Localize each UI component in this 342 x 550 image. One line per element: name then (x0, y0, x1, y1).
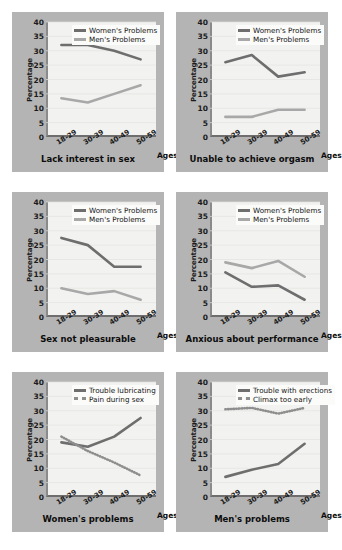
legend-label: Climax too early (253, 395, 312, 404)
legend-label: Women's Problems (253, 206, 321, 215)
y-axis-tick: 5 (39, 478, 44, 487)
y-axis-tick: 10 (198, 284, 208, 293)
chart-legend: Women's ProblemsMen's Problems (236, 205, 324, 225)
y-axis-tick: 20 (34, 75, 44, 84)
y-axis-tick: 5 (39, 118, 44, 127)
legend-swatch-icon (74, 389, 86, 392)
chart-panel: Percentage051015202530354018-2930-3940-4… (12, 192, 164, 352)
legend-item: Pain during sex (74, 395, 156, 404)
y-axis-tick: 30 (198, 226, 208, 235)
chart-legend: Women's ProblemsMen's Problems (236, 25, 324, 45)
legend-swatch-icon (74, 29, 86, 32)
plot-area: Percentage051015202530354018-2930-3940-4… (46, 202, 156, 317)
legend-item: Women's Problems (238, 26, 321, 35)
legend-swatch-icon (74, 38, 86, 41)
y-axis-tick: 40 (34, 198, 44, 207)
series-line (225, 272, 304, 299)
y-axis-tick: 15 (198, 89, 208, 98)
legend-label: Men's Problems (89, 35, 145, 44)
y-axis-tick: 40 (198, 378, 208, 387)
y-axis-tick: 0 (39, 133, 44, 142)
chart-caption: Men's problems (176, 514, 328, 524)
y-axis-tick: 10 (34, 284, 44, 293)
plot-area: Percentage051015202530354018-2930-3940-4… (46, 382, 156, 497)
legend-item: Women's Problems (238, 206, 321, 215)
y-axis-tick: 0 (39, 493, 44, 502)
legend-item: Men's Problems (74, 215, 157, 224)
y-axis-tick: 40 (34, 18, 44, 27)
chart-panel: Percentage051015202530354018-2930-3940-4… (12, 12, 164, 172)
y-axis-tick: 15 (34, 449, 44, 458)
y-axis-tick: 25 (198, 421, 208, 430)
chart-panel: Percentage051015202530354018-2930-3940-4… (176, 12, 328, 172)
legend-swatch-icon (238, 209, 250, 212)
chart-panel: Percentage051015202530354018-2930-3940-4… (12, 372, 164, 532)
legend-item: Trouble with erections (238, 386, 332, 395)
legend-swatch-icon (238, 389, 250, 392)
legend-label: Women's Problems (89, 206, 157, 215)
legend-swatch-icon (238, 397, 250, 403)
series-line (61, 45, 140, 59)
series-line (225, 110, 304, 117)
y-axis-tick: 25 (198, 61, 208, 70)
y-axis-tick: 35 (198, 392, 208, 401)
series-line (61, 288, 140, 300)
y-axis-tick: 25 (198, 241, 208, 250)
y-axis-tick: 5 (203, 118, 208, 127)
chart-legend: Trouble with erectionsClimax too early (236, 385, 335, 405)
chart-caption: Lack interest in sex (12, 154, 164, 164)
y-axis-tick: 30 (198, 46, 208, 55)
y-axis-tick: 15 (34, 269, 44, 278)
legend-label: Women's Problems (89, 26, 157, 35)
y-axis-tick: 30 (198, 406, 208, 415)
y-axis-tick: 20 (34, 255, 44, 264)
legend-swatch-icon (238, 218, 250, 221)
legend-label: Men's Problems (253, 35, 309, 44)
y-axis-tick: 0 (39, 313, 44, 322)
plot-area: Percentage051015202530354018-2930-3940-4… (210, 22, 320, 137)
chart-caption: Anxious about performance (176, 334, 328, 344)
y-axis-tick: 35 (34, 212, 44, 221)
plot-area: Percentage051015202530354018-2930-3940-4… (210, 202, 320, 317)
series-line (225, 444, 304, 477)
y-axis-tick: 5 (39, 298, 44, 307)
series-line (225, 261, 304, 277)
legend-item: Men's Problems (238, 215, 321, 224)
y-axis-tick: 35 (198, 212, 208, 221)
chart-caption: Unable to achieve orgasm (176, 154, 328, 164)
chart-panel: Percentage051015202530354018-2930-3940-4… (176, 192, 328, 352)
y-axis-tick: 10 (34, 104, 44, 113)
y-axis-tick: 20 (198, 75, 208, 84)
chart-caption: Sex not pleasurable (12, 334, 164, 344)
y-axis-tick: 5 (203, 478, 208, 487)
y-axis-tick: 5 (203, 298, 208, 307)
legend-swatch-icon (74, 397, 86, 403)
legend-swatch-icon (238, 29, 250, 32)
series-line (225, 55, 304, 77)
legend-item: Climax too early (238, 395, 332, 404)
legend-item: Men's Problems (74, 35, 157, 44)
legend-label: Women's Problems (253, 26, 321, 35)
y-axis-tick: 30 (34, 406, 44, 415)
y-axis-tick: 0 (203, 313, 208, 322)
y-axis-tick: 35 (198, 32, 208, 41)
chart-legend: Women's ProblemsMen's Problems (72, 205, 160, 225)
y-axis-tick: 0 (203, 493, 208, 502)
y-axis-tick: 25 (34, 61, 44, 70)
legend-label: Men's Problems (89, 215, 145, 224)
y-axis-tick: 20 (34, 435, 44, 444)
y-axis-tick: 25 (34, 241, 44, 250)
chart-panel: Percentage051015202530354018-2930-3940-4… (176, 372, 328, 532)
series-line (61, 238, 140, 267)
chart-legend: Women's ProblemsMen's Problems (72, 25, 160, 45)
y-axis-tick: 15 (198, 269, 208, 278)
legend-label: Trouble with erections (253, 386, 332, 395)
y-axis-tick: 35 (34, 32, 44, 41)
y-axis-tick: 40 (34, 378, 44, 387)
y-axis-tick: 20 (198, 435, 208, 444)
plot-area: Percentage051015202530354018-2930-3940-4… (46, 22, 156, 137)
legend-item: Women's Problems (74, 26, 157, 35)
chart-caption: Women's problems (12, 514, 164, 524)
legend-swatch-icon (238, 38, 250, 41)
